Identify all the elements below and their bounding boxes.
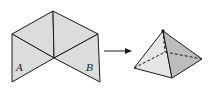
arrow-right-icon	[104, 48, 132, 54]
pyramid	[134, 30, 202, 78]
fold-diagram: A B	[0, 0, 211, 88]
label-b: B	[85, 62, 93, 73]
pyramid-apex	[162, 30, 164, 32]
label-a: A	[15, 62, 23, 73]
